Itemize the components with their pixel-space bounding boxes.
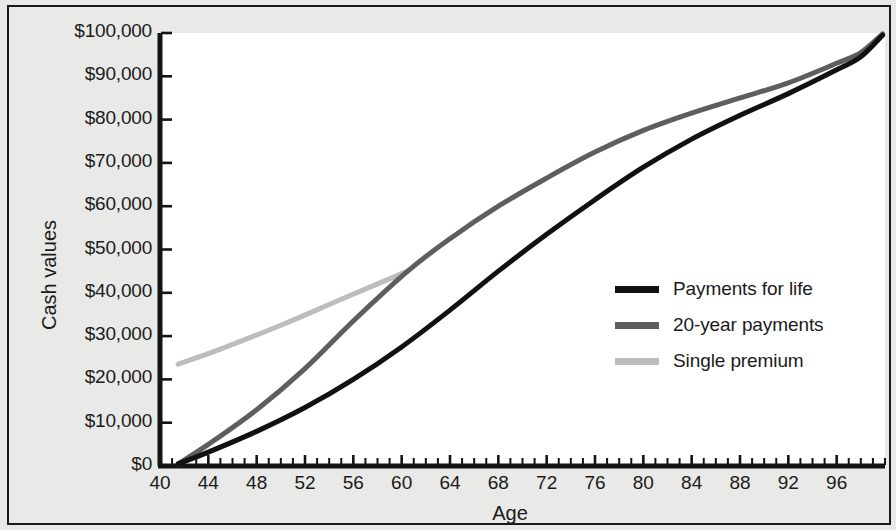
x-tick-label: 80 [618, 472, 668, 494]
x-tick-label: 96 [812, 472, 862, 494]
legend-item[interactable]: Payments for life [615, 276, 813, 302]
y-tick-label: $70,000 [85, 150, 152, 172]
y-tick-label: $10,000 [85, 410, 152, 432]
legend-swatch-icon [615, 322, 659, 329]
legend-swatch-icon [615, 358, 659, 365]
legend-item[interactable]: 20-year payments [615, 312, 823, 338]
y-tick-label: $20,000 [85, 366, 152, 388]
x-tick-label: 60 [377, 472, 427, 494]
y-tick-label: $30,000 [85, 323, 152, 345]
x-tick-label: 64 [425, 472, 475, 494]
y-tick-label: $80,000 [85, 107, 152, 129]
x-tick-label: 76 [570, 472, 620, 494]
y-axis-title: Cash values [38, 220, 61, 330]
x-tick-label: 48 [232, 472, 282, 494]
x-tick-label: 88 [715, 472, 765, 494]
x-tick-label: 56 [328, 472, 378, 494]
x-tick-label: 92 [763, 472, 813, 494]
plot-container: $0$10,000$20,000$30,000$40,000$50,000$60… [0, 0, 896, 530]
x-axis-title: Age [470, 502, 550, 525]
x-tick-label: 52 [280, 472, 330, 494]
y-tick-label: $100,000 [74, 20, 152, 42]
y-tick-label: $50,000 [85, 237, 152, 259]
x-tick-label: 84 [667, 472, 717, 494]
legend-label: Payments for life [673, 278, 813, 300]
legend-label: 20-year payments [673, 314, 823, 336]
x-tick-label: 40 [135, 472, 185, 494]
x-tick-label: 72 [522, 472, 572, 494]
x-tick-label: 68 [473, 472, 523, 494]
y-tick-label: $60,000 [85, 193, 152, 215]
x-tick-label: 44 [183, 472, 233, 494]
legend-item[interactable]: Single premium [615, 348, 804, 374]
y-tick-label: $90,000 [85, 63, 152, 85]
y-tick-label: $40,000 [85, 280, 152, 302]
legend-label: Single premium [673, 350, 804, 372]
chart-figure: $0$10,000$20,000$30,000$40,000$50,000$60… [0, 0, 896, 530]
legend-swatch-icon [615, 286, 659, 293]
